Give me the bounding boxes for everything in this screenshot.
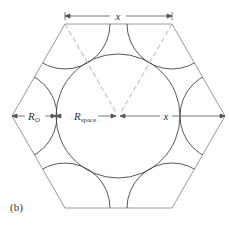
- dashed-line-left: [65, 24, 117, 114]
- panel-label: (b): [10, 201, 23, 214]
- dashed-line-right: [120, 24, 172, 114]
- top-dimension-label: x: [115, 10, 121, 22]
- corner-circle-bottom-left: [20, 163, 110, 226]
- corner-circle-top-left: [20, 0, 110, 69]
- corner-circle-bottom-right: [127, 163, 217, 226]
- r-o-label: RO: [27, 110, 40, 124]
- right-dimension-label: x: [163, 110, 169, 122]
- r-space-label: Rspace: [73, 110, 96, 124]
- middle-dimension-arrows: [12, 114, 225, 118]
- hexagonal-packing-diagram: x RO Rspace x (b): [0, 0, 229, 226]
